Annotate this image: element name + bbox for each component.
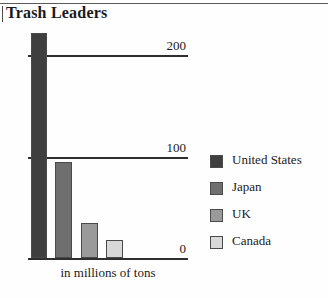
bar-uk xyxy=(81,223,98,258)
gridline-100 xyxy=(28,157,188,159)
bar-canada xyxy=(106,240,123,258)
chart-page: Trash Leaders 200 100 0 in millions of t… xyxy=(0,0,328,298)
legend-label: Canada xyxy=(232,233,271,249)
legend-item-japan: Japan xyxy=(210,179,326,206)
axis-baseline xyxy=(28,258,188,260)
bar-united-states xyxy=(31,33,47,258)
legend-item-united-states: United States xyxy=(210,152,326,179)
legend-label: Japan xyxy=(232,179,262,195)
bar-japan xyxy=(55,162,72,258)
gridline-200 xyxy=(28,55,188,57)
legend-swatch-icon xyxy=(210,182,223,195)
legend-swatch-icon xyxy=(210,236,223,249)
legend-swatch-icon xyxy=(210,209,223,222)
tick-label-200: 200 xyxy=(140,38,186,54)
legend: United States Japan UK Canada xyxy=(210,152,326,260)
legend-label: UK xyxy=(232,206,251,222)
tick-label-0: 0 xyxy=(140,241,186,257)
legend-swatch-icon xyxy=(210,155,223,168)
axis-caption: in millions of tons xyxy=(28,265,188,281)
legend-item-canada: Canada xyxy=(210,233,326,260)
legend-item-uk: UK xyxy=(210,206,326,233)
legend-label: United States xyxy=(232,152,302,168)
tick-label-100: 100 xyxy=(140,140,186,156)
